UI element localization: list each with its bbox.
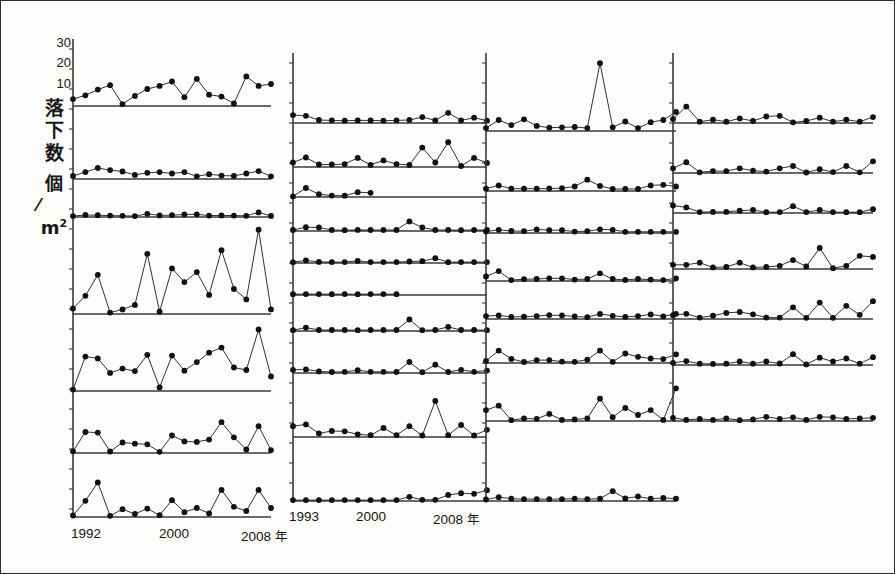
series-line bbox=[293, 362, 487, 372]
data-point bbox=[484, 427, 490, 433]
data-point bbox=[670, 312, 676, 318]
data-point bbox=[407, 423, 413, 429]
data-point bbox=[120, 101, 126, 107]
series-line bbox=[486, 388, 676, 420]
series-line bbox=[673, 248, 873, 268]
data-point bbox=[458, 227, 464, 233]
panel-column-svg-2 bbox=[1, 1, 895, 574]
data-point bbox=[483, 274, 489, 280]
data-point bbox=[120, 506, 126, 512]
data-point bbox=[857, 253, 863, 259]
data-point bbox=[471, 227, 477, 233]
data-point bbox=[329, 497, 335, 503]
series-line bbox=[293, 142, 487, 166]
data-point bbox=[368, 162, 374, 168]
data-point bbox=[182, 368, 188, 374]
data-point bbox=[610, 359, 616, 365]
data-point bbox=[368, 497, 374, 503]
data-point bbox=[329, 327, 335, 333]
data-point bbox=[508, 122, 514, 128]
data-point bbox=[381, 227, 387, 233]
data-point bbox=[683, 311, 689, 317]
y-axis-unit-numerator: 個 bbox=[31, 173, 77, 194]
series-line bbox=[293, 401, 487, 436]
data-point bbox=[508, 496, 514, 502]
data-point bbox=[521, 416, 527, 422]
data-point bbox=[584, 276, 590, 282]
data-point bbox=[368, 227, 374, 233]
data-point bbox=[303, 422, 309, 428]
data-point bbox=[329, 259, 335, 265]
data-point bbox=[303, 291, 309, 297]
data-point bbox=[381, 118, 387, 124]
data-point bbox=[584, 357, 590, 363]
data-point bbox=[256, 210, 262, 216]
data-point bbox=[817, 300, 823, 306]
data-point bbox=[483, 125, 489, 131]
data-point bbox=[169, 353, 175, 359]
data-point bbox=[219, 345, 225, 351]
data-point bbox=[683, 417, 689, 423]
data-point bbox=[673, 275, 679, 281]
data-point bbox=[407, 359, 413, 365]
data-point bbox=[648, 229, 654, 235]
data-point bbox=[120, 440, 126, 446]
data-point bbox=[445, 227, 451, 233]
data-point bbox=[132, 93, 138, 99]
data-point bbox=[697, 260, 703, 266]
data-point bbox=[610, 186, 616, 192]
data-point bbox=[316, 117, 322, 123]
data-point bbox=[710, 361, 716, 367]
data-point bbox=[268, 81, 274, 87]
data-point bbox=[777, 113, 783, 119]
data-point bbox=[268, 447, 274, 453]
data-point bbox=[648, 356, 654, 362]
data-point bbox=[342, 428, 348, 434]
data-point bbox=[584, 314, 590, 320]
data-point bbox=[790, 304, 796, 310]
data-point bbox=[737, 309, 743, 315]
data-point bbox=[368, 327, 374, 333]
data-point bbox=[432, 160, 438, 166]
data-point bbox=[355, 497, 361, 503]
data-point bbox=[572, 417, 578, 423]
data-point bbox=[683, 159, 689, 165]
data-point bbox=[83, 212, 89, 218]
data-point bbox=[303, 113, 309, 119]
y-axis-label-char-2: 下 bbox=[31, 119, 77, 141]
data-point bbox=[857, 312, 863, 318]
data-point bbox=[790, 163, 796, 169]
data-point bbox=[610, 488, 616, 494]
data-point bbox=[484, 118, 490, 124]
data-point bbox=[546, 312, 552, 318]
data-point bbox=[496, 268, 502, 274]
series-line bbox=[673, 417, 873, 420]
data-point bbox=[496, 313, 502, 319]
data-point bbox=[777, 263, 783, 269]
data-point bbox=[458, 327, 464, 333]
data-point bbox=[157, 213, 163, 219]
data-point bbox=[355, 431, 361, 437]
data-point bbox=[329, 291, 335, 297]
data-point bbox=[597, 396, 603, 402]
data-point bbox=[683, 104, 689, 110]
data-point bbox=[445, 432, 451, 438]
data-point bbox=[231, 365, 237, 371]
data-point bbox=[394, 432, 400, 438]
data-point bbox=[144, 170, 150, 176]
data-point bbox=[394, 291, 400, 297]
data-point bbox=[559, 496, 565, 502]
series-line bbox=[293, 258, 487, 262]
data-point bbox=[597, 183, 603, 189]
data-point bbox=[419, 225, 425, 231]
data-point bbox=[817, 414, 823, 420]
data-point bbox=[342, 193, 348, 199]
data-point bbox=[303, 367, 309, 373]
data-point bbox=[407, 162, 413, 168]
data-point bbox=[316, 191, 322, 197]
data-point bbox=[394, 369, 400, 375]
data-point bbox=[182, 169, 188, 175]
data-point bbox=[95, 87, 101, 93]
panel-column-svg-3 bbox=[1, 1, 895, 574]
series-line bbox=[73, 330, 271, 390]
